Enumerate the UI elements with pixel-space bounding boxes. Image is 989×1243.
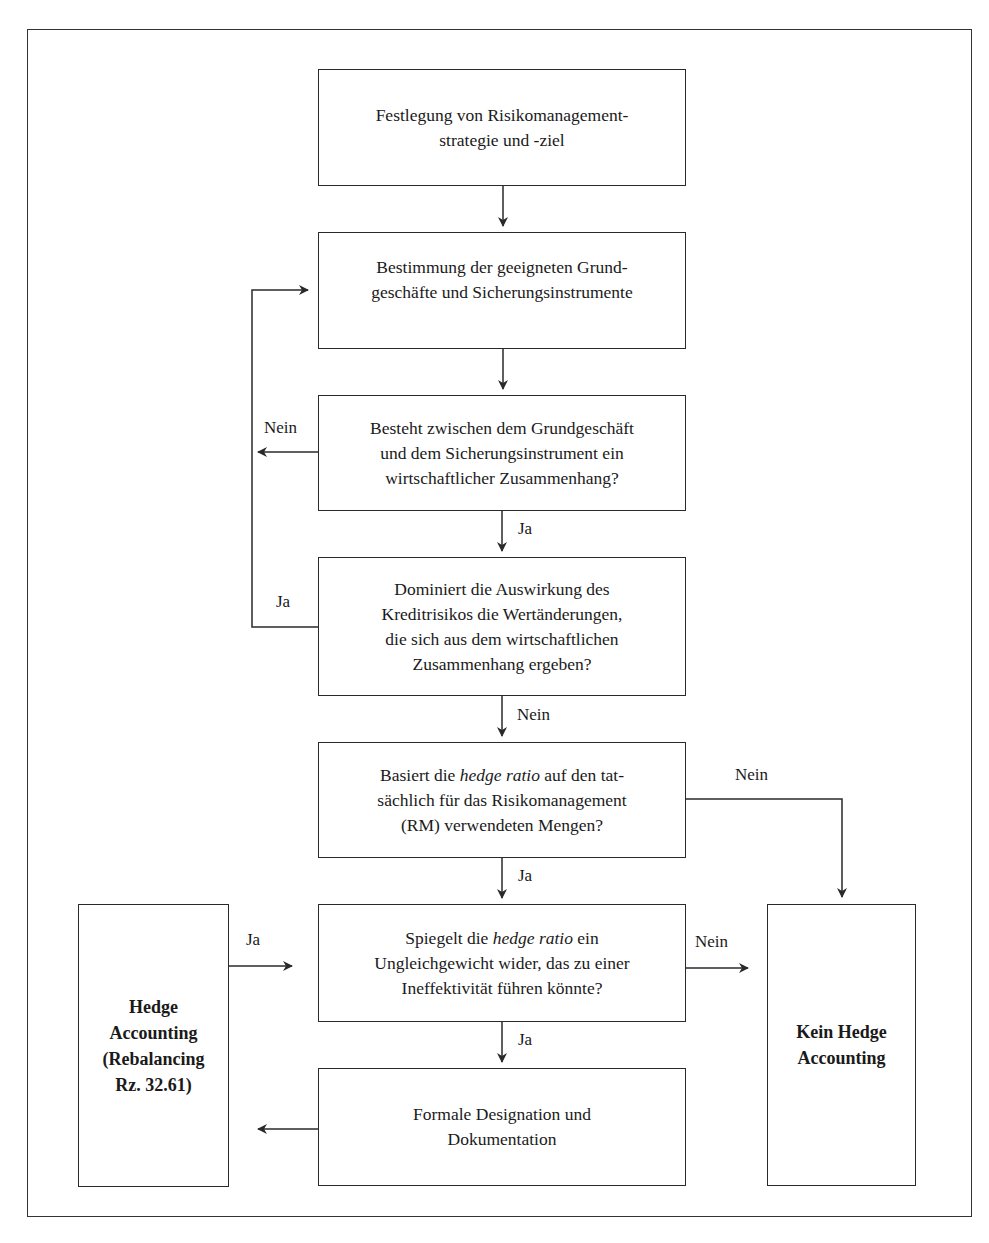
node-hedge-accounting: Hedge Accounting (Rebalancing Rz. 32.61) [78, 904, 229, 1187]
node-hedge-accounting-text: Hedge Accounting (Rebalancing Rz. 32.61) [102, 994, 204, 1098]
node-economic-relationship: Besteht zwischen dem Grundgeschäft und d… [318, 395, 686, 511]
node-hedge-ratio-imbalance-text: Spiegelt die hedge ratio ein Ungleichgew… [374, 926, 629, 1001]
label-n6-no: Nein [695, 932, 728, 952]
node-no-hedge-accounting: Kein Hedge Accounting [767, 904, 916, 1186]
label-n6-yes: Ja [518, 1030, 532, 1050]
node-hedge-ratio-basis: Basiert die hedge ratio auf den tat- säc… [318, 742, 686, 858]
node-select-items: Bestimmung der geeigneten Grund- geschäf… [318, 232, 686, 349]
node-select-items-text: Bestimmung der geeigneten Grund- geschäf… [371, 255, 632, 305]
label-n5-yes: Ja [518, 866, 532, 886]
node-hedge-ratio-basis-text: Basiert die hedge ratio auf den tat- säc… [377, 763, 626, 838]
label-n4-no: Nein [517, 705, 550, 725]
node-no-hedge-accounting-text: Kein Hedge Accounting [796, 1019, 887, 1071]
node-formal-designation: Formale Designation und Dokumentation [318, 1068, 686, 1186]
node-credit-risk-text: Dominiert die Auswirkung des Kreditrisik… [382, 577, 623, 677]
node-hedge-ratio-imbalance: Spiegelt die hedge ratio ein Ungleichgew… [318, 904, 686, 1022]
node-formal-designation-text: Formale Designation und Dokumentation [413, 1102, 591, 1152]
node-credit-risk: Dominiert die Auswirkung des Kreditrisik… [318, 557, 686, 696]
label-n3-no: Nein [264, 418, 297, 438]
label-left-yes: Ja [246, 930, 260, 950]
node-risk-strategy: Festlegung von Risikomanagement- strateg… [318, 69, 686, 186]
label-n3-yes: Ja [518, 519, 532, 539]
node-economic-relationship-text: Besteht zwischen dem Grundgeschäft und d… [370, 416, 634, 491]
label-n4-yes: Ja [276, 592, 290, 612]
node-risk-strategy-text: Festlegung von Risikomanagement- strateg… [376, 103, 629, 153]
label-n5-no: Nein [735, 765, 768, 785]
